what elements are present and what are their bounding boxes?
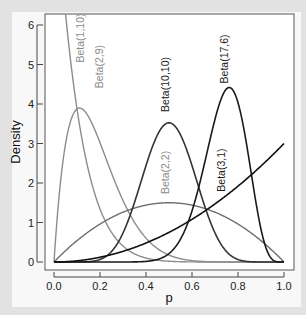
y-tick-label: 4 <box>28 98 34 110</box>
y-tick-label: 6 <box>28 19 34 31</box>
curve-label: Beta(10,10) <box>159 57 171 112</box>
y-tick-label: 1 <box>28 217 34 229</box>
curve-label: Beta(2,2) <box>159 151 171 194</box>
curve-label: Beta(3,1) <box>215 148 227 191</box>
x-tick-label: 0.2 <box>92 280 107 292</box>
y-tick-label: 0 <box>28 256 34 268</box>
curve-label: Beta(17,6) <box>218 34 230 83</box>
y-tick-label: 2 <box>28 177 34 189</box>
curve-label: Beta(2,9) <box>93 45 105 88</box>
beta-density-chart: 0123456 0.00.20.40.60.81.0 p Density Bet… <box>0 0 306 315</box>
curve-label: Beta(1,10) <box>74 13 86 62</box>
y-tick-label: 5 <box>28 59 34 71</box>
x-axis-title: p <box>165 290 172 305</box>
x-axis: 0.00.20.40.60.81.0 <box>46 272 291 292</box>
x-tick-label: 1.0 <box>276 280 291 292</box>
x-tick-label: 0.6 <box>184 280 199 292</box>
x-tick-label: 0.0 <box>46 280 61 292</box>
y-tick-label: 3 <box>28 138 34 150</box>
x-tick-label: 0.4 <box>138 280 153 292</box>
y-axis-title: Density <box>8 120 23 164</box>
y-axis: 0123456 <box>28 19 43 268</box>
x-tick-label: 0.8 <box>230 280 245 292</box>
